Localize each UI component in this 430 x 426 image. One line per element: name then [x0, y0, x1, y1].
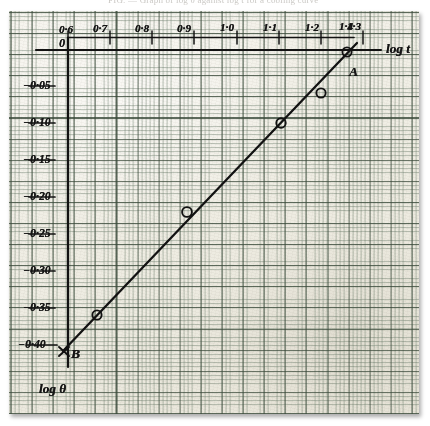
annotation-label-b: B: [71, 347, 80, 361]
data-point-2: [182, 207, 192, 217]
x-tick-label-6: 1·2: [305, 22, 319, 33]
x-tick-label-3: 0·9: [177, 23, 191, 34]
y-tick-label-2: −0·10: [23, 117, 51, 129]
x-axis-title: log t: [386, 42, 410, 55]
y-tick-label-7: −0·35: [23, 302, 51, 314]
x-tick-label-1: 0·7: [93, 23, 107, 34]
y-tick-label-5: −0·25: [23, 228, 51, 240]
origin-label: 0: [59, 37, 65, 49]
plot-ink-layer: 0·6 0·7 0·8 0·9 1·0 1·1 1·2 1·3 1·4 0 −0…: [9, 11, 419, 414]
y-tick-label-8: −0·40: [18, 339, 46, 351]
y-tick-label-1: −0·05: [23, 80, 51, 92]
x-tick-label-8: 1·4: [339, 21, 353, 32]
graph-paper-sheet: 0·6 0·7 0·8 0·9 1·0 1·1 1·2 1·3 1·4 0 −0…: [9, 11, 419, 414]
data-point-4: [316, 88, 325, 97]
x-tick-label-4: 1·0: [220, 22, 234, 33]
y-tick-label-4: −0·20: [23, 191, 51, 203]
annotation-label-a: A: [349, 65, 358, 79]
x-tick-label-5: 1·1: [263, 22, 277, 33]
printed-caption-text: FIG. — Graph of log θ against log t for …: [108, 0, 319, 5]
y-tick-label-3: −0·15: [23, 154, 51, 166]
screenshot-root: FIG. — Graph of log θ against log t for …: [0, 0, 430, 426]
x-tick-label-0: 0·6: [59, 24, 73, 35]
y-tick-label-6: −0·30: [23, 265, 51, 277]
x-tick-label-2: 0·8: [135, 23, 149, 34]
best-fit-line: [63, 43, 357, 351]
y-axis-title: log θ: [39, 382, 66, 395]
